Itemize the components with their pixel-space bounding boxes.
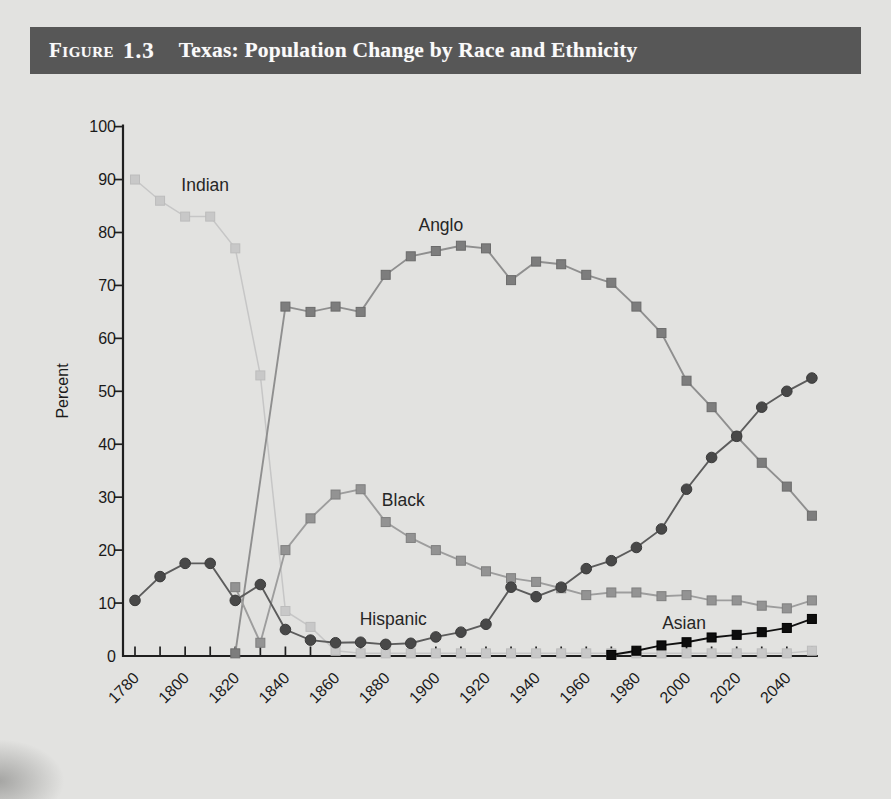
data-point-black bbox=[807, 596, 816, 605]
y-tick-label: 80 bbox=[98, 224, 116, 241]
data-point-indian bbox=[156, 196, 165, 205]
y-tick-label: 10 bbox=[98, 595, 116, 612]
data-point-indian bbox=[281, 607, 290, 616]
series-black-line bbox=[235, 489, 812, 643]
data-point-hispanic bbox=[656, 524, 667, 535]
data-point-indian bbox=[231, 244, 240, 253]
series-label-anglo: Anglo bbox=[418, 215, 463, 235]
data-point-anglo bbox=[607, 278, 616, 287]
data-point-hispanic bbox=[756, 402, 767, 413]
data-point-anglo bbox=[331, 302, 340, 311]
data-point-hispanic bbox=[531, 591, 542, 602]
data-point-black bbox=[331, 490, 340, 499]
data-point-asian bbox=[807, 614, 816, 623]
data-point-anglo bbox=[456, 241, 465, 250]
x-tick-label: 1960 bbox=[556, 669, 593, 706]
data-point-hispanic bbox=[782, 386, 793, 397]
data-point-indian bbox=[507, 649, 516, 658]
data-point-anglo bbox=[356, 307, 365, 316]
y-tick-label: 50 bbox=[98, 383, 116, 400]
data-point-anglo bbox=[532, 257, 541, 266]
series-label-black: Black bbox=[382, 490, 425, 510]
data-point-hispanic bbox=[631, 542, 642, 553]
data-point-indian bbox=[782, 649, 791, 658]
data-point-hispanic bbox=[681, 484, 692, 495]
data-point-anglo bbox=[657, 329, 666, 338]
data-point-asian bbox=[682, 638, 691, 647]
x-tick-label: 1780 bbox=[105, 669, 142, 706]
data-point-indian bbox=[757, 649, 766, 658]
data-point-anglo bbox=[306, 307, 315, 316]
data-point-black bbox=[356, 485, 365, 494]
data-point-indian bbox=[381, 649, 390, 658]
data-point-anglo bbox=[431, 247, 440, 256]
data-point-asian bbox=[757, 628, 766, 637]
data-point-indian bbox=[532, 649, 541, 658]
data-point-indian bbox=[406, 649, 415, 658]
data-point-indian bbox=[356, 649, 365, 658]
data-point-indian bbox=[131, 175, 140, 184]
x-tick-label: 2000 bbox=[656, 669, 693, 706]
x-tick-label: 2040 bbox=[757, 669, 794, 706]
x-tick-label: 2020 bbox=[707, 669, 744, 706]
data-point-indian bbox=[707, 649, 716, 658]
data-point-hispanic bbox=[481, 619, 492, 630]
data-point-anglo bbox=[507, 276, 516, 285]
data-point-asian bbox=[657, 641, 666, 650]
data-point-black bbox=[456, 556, 465, 565]
x-tick-label: 1840 bbox=[255, 669, 292, 706]
data-point-black bbox=[507, 574, 516, 583]
y-tick-label: 90 bbox=[98, 171, 116, 188]
data-point-indian bbox=[582, 649, 591, 658]
data-point-hispanic bbox=[405, 638, 416, 649]
data-point-anglo bbox=[381, 270, 390, 279]
data-point-indian bbox=[431, 649, 440, 658]
data-point-hispanic bbox=[380, 639, 391, 650]
data-point-asian bbox=[707, 633, 716, 642]
y-tick-label: 30 bbox=[98, 489, 116, 506]
data-point-anglo bbox=[481, 244, 490, 253]
data-point-hispanic bbox=[431, 632, 442, 643]
data-point-hispanic bbox=[280, 624, 291, 635]
data-point-black bbox=[607, 588, 616, 597]
x-tick-label: 1800 bbox=[155, 669, 192, 706]
data-point-black bbox=[381, 518, 390, 527]
data-point-indian bbox=[732, 649, 741, 658]
data-point-indian bbox=[306, 622, 315, 631]
y-axis-title: Percent bbox=[54, 363, 71, 419]
y-tick-label: 100 bbox=[89, 118, 116, 135]
data-point-anglo bbox=[231, 649, 240, 658]
series-label-hispanic: Hispanic bbox=[360, 609, 427, 629]
data-point-hispanic bbox=[330, 637, 341, 648]
data-point-anglo bbox=[782, 482, 791, 491]
y-tick-label: 0 bbox=[107, 648, 116, 665]
data-point-hispanic bbox=[230, 595, 241, 606]
data-point-indian bbox=[181, 212, 190, 221]
data-point-hispanic bbox=[506, 582, 517, 593]
x-tick-label: 1920 bbox=[456, 669, 493, 706]
data-point-black bbox=[782, 604, 791, 613]
data-point-asian bbox=[632, 646, 641, 655]
data-point-black bbox=[281, 546, 290, 555]
data-point-black bbox=[481, 567, 490, 576]
data-point-black bbox=[406, 533, 415, 542]
data-point-hispanic bbox=[180, 558, 191, 569]
data-point-asian bbox=[782, 623, 791, 632]
data-point-indian bbox=[481, 649, 490, 658]
data-point-hispanic bbox=[606, 555, 617, 566]
data-point-black bbox=[306, 514, 315, 523]
data-point-anglo bbox=[807, 511, 816, 520]
data-point-hispanic bbox=[706, 452, 717, 463]
x-tick-label: 1940 bbox=[506, 669, 543, 706]
x-tick-label: 1900 bbox=[406, 669, 443, 706]
data-point-black bbox=[657, 592, 666, 601]
data-point-indian bbox=[557, 649, 566, 658]
series-label-indian: Indian bbox=[181, 175, 229, 195]
data-point-black bbox=[231, 583, 240, 592]
x-tick-label: 1880 bbox=[356, 669, 393, 706]
y-tick-label: 70 bbox=[98, 277, 116, 294]
data-point-hispanic bbox=[556, 582, 567, 593]
series-label-asian: Asian bbox=[662, 613, 706, 633]
